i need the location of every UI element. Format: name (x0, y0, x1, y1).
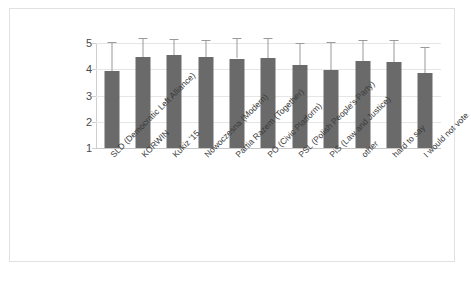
error-bar-line (268, 38, 269, 58)
error-bar-cap (201, 40, 210, 41)
y-tick-label-4: 4 (66, 64, 92, 75)
error-bar-cap (389, 40, 398, 41)
error-bar-line (331, 42, 332, 69)
error-bar-cap (107, 42, 116, 43)
error-bar-cap (358, 40, 367, 41)
y-tick-label-1: 1 (66, 143, 92, 154)
y-tickmark-4 (92, 69, 96, 70)
y-tick-label-5: 5 (66, 38, 92, 49)
error-bar-cap (170, 39, 179, 40)
error-bar-line (362, 40, 363, 60)
y-tick-label-2: 2 (66, 116, 92, 127)
plot-area (96, 43, 441, 148)
y-tickmark-1 (92, 148, 96, 149)
bar[interactable] (104, 71, 119, 148)
error-bar-line (205, 40, 206, 58)
y-tick-label-3: 3 (66, 90, 92, 101)
y-tickmark-2 (92, 122, 96, 123)
error-bar-line (143, 38, 144, 57)
y-axis-tick-labels: 12345 (62, 43, 92, 148)
error-bar-cap (327, 42, 336, 43)
y-tickmark-5 (92, 43, 96, 44)
y-tickmark-3 (92, 96, 96, 97)
error-bar-line (425, 47, 426, 73)
error-bar-line (299, 43, 300, 65)
chart-frame: 12345 SLD (Democratic Left Alliance)KORW… (9, 8, 455, 262)
error-bar-line (393, 40, 394, 62)
error-bar-cap (233, 38, 242, 39)
error-bar-cap (139, 38, 148, 39)
bar[interactable] (386, 62, 401, 148)
chart-plot-wrapper: 12345 SLD (Democratic Left Alliance)KORW… (10, 9, 456, 263)
bar[interactable] (418, 73, 433, 148)
error-bar-line (111, 42, 112, 71)
error-bar-cap (421, 47, 430, 48)
error-bar-cap (295, 43, 304, 44)
error-bar-line (237, 38, 238, 59)
bar-group[interactable] (96, 43, 127, 148)
error-bar-line (174, 39, 175, 55)
error-bar-cap (264, 38, 273, 39)
